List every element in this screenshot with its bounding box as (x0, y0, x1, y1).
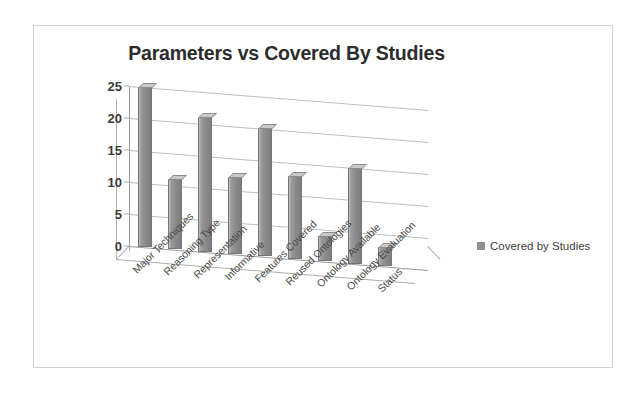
y-tick-label-10: 10 (108, 175, 122, 190)
bar (138, 87, 152, 247)
legend-swatch-icon (477, 242, 485, 250)
bar (258, 128, 272, 256)
chart-container: Parameters vs Covered By Studies 2520151… (33, 25, 613, 368)
chart-legend: Covered by Studies (477, 240, 590, 252)
y-tick-mark-15 (124, 150, 129, 151)
y-tick-mark-5 (124, 214, 129, 215)
gridline-15 (129, 150, 428, 175)
y-tick-mark-20 (124, 118, 129, 119)
y-tick-label-25: 25 (108, 79, 122, 94)
y-tick-label-0: 0 (115, 239, 122, 254)
x-tick-mark (129, 247, 130, 251)
x-axis-category-labels: Major TechniquesReasoning TypeRepresenta… (129, 258, 489, 348)
chart-title: Parameters vs Covered By Studies (34, 42, 539, 65)
y-axis-line (129, 86, 130, 246)
y-tick-mark-25 (124, 86, 129, 87)
legend-label: Covered by Studies (490, 240, 590, 252)
gridline-20 (129, 118, 428, 143)
category-label: Status (375, 265, 404, 294)
y-tick-mark-10 (124, 182, 129, 183)
y-tick-label-5: 5 (115, 207, 122, 222)
y-tick-label-15: 15 (108, 143, 122, 158)
y-tick-label-20: 20 (108, 111, 122, 126)
gridline-25 (129, 86, 428, 111)
